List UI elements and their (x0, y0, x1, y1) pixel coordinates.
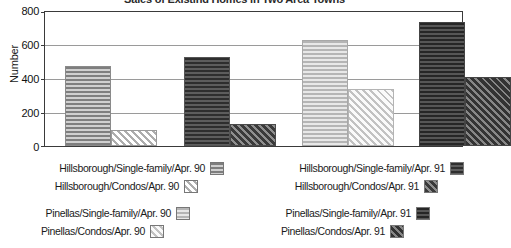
legend-item-hillsborough-single-family-apr91: Hillsborough/Single-family/Apr. 91 (299, 162, 464, 175)
plot-area (44, 11, 463, 147)
legend-swatch-diagonal-hatch-darkest-icon (390, 225, 404, 238)
tick-mark-0 (41, 146, 45, 147)
legend-label: Hillsborough/Condos/Apr. 91 (295, 181, 419, 192)
chart-title: Sales of Existing Homes in Two Area Town… (0, 0, 469, 3)
legend-item-hillsborough-condos-apr91: Hillsborough/Condos/Apr. 91 (295, 180, 438, 193)
legend-item-hillsborough-single-family-apr90: Hillsborough/Single-family/Apr. 90 (59, 162, 224, 175)
legend-item-hillsborough-condos-apr90: Hillsborough/Condos/Apr. 90 (55, 180, 198, 193)
bar-pinellas-condos-apr91 (465, 77, 511, 146)
legend-label: Hillsborough/Condos/Apr. 90 (55, 181, 179, 192)
bar-pinellas-single-family-apr91 (419, 22, 465, 146)
legend-item-pinellas-condos-apr90: Pinellas/Condos/Apr. 90 (41, 225, 164, 238)
legend-swatch-horizontal-stripes-medium-icon (210, 162, 224, 175)
y-tick-0: 0 (7, 142, 39, 152)
legend-swatch-diagonal-hatch-very-light-icon (150, 225, 164, 238)
legend-item-pinellas-single-family-apr91: Pinellas/Single-family/Apr. 91 (286, 207, 430, 220)
legend-column-right: Hillsborough/Single-family/Apr. 91 Hills… (236, 160, 470, 248)
y-tick-600: 600 (7, 40, 39, 50)
legend-swatch-diagonal-hatch-light-icon (184, 180, 198, 193)
legend-label: Pinellas/Single-family/Apr. 90 (46, 208, 171, 219)
bar-series-group4 (45, 12, 462, 146)
legend-swatch-horizontal-stripes-darkest-icon (416, 207, 430, 220)
legend-label: Hillsborough/Single-family/Apr. 91 (299, 163, 445, 174)
legend-label: Pinellas/Single-family/Apr. 91 (286, 208, 411, 219)
legend-label: Pinellas/Condos/Apr. 91 (281, 226, 385, 237)
y-tick-200: 200 (7, 108, 39, 118)
legend-swatch-horizontal-stripes-very-light-icon (176, 207, 190, 220)
legend-swatch-diagonal-hatch-dark-icon (424, 180, 438, 193)
legend-swatch-horizontal-stripes-dark-icon (450, 162, 464, 175)
chart-legend: Hillsborough/Single-family/Apr. 90 Hills… (0, 160, 469, 248)
y-tick-800: 800 (7, 6, 39, 16)
y-tick-400: 400 (7, 74, 39, 84)
legend-item-pinellas-single-family-apr90: Pinellas/Single-family/Apr. 90 (46, 207, 190, 220)
legend-label: Pinellas/Condos/Apr. 90 (41, 226, 145, 237)
legend-column-left: Hillsborough/Single-family/Apr. 90 Hills… (0, 160, 234, 248)
legend-label: Hillsborough/Single-family/Apr. 90 (59, 163, 205, 174)
legend-item-pinellas-condos-apr91: Pinellas/Condos/Apr. 91 (281, 225, 404, 238)
